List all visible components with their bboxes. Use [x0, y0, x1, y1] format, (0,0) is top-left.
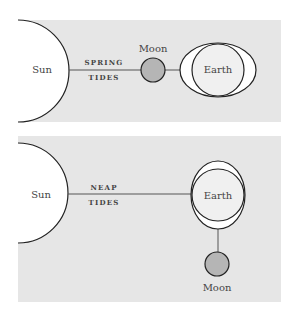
moon-icon	[141, 58, 165, 82]
caption-line2: TIDES	[89, 198, 120, 207]
tides-diagram: Sun SPRING TIDES Moon Earth Sun NEAP TID…	[0, 0, 296, 319]
earth-label: Earth	[204, 190, 233, 201]
moon-icon	[205, 252, 229, 276]
caption-line1: NEAP	[90, 183, 117, 192]
moon-label: Moon	[139, 43, 168, 54]
spring-tides-panel: Sun SPRING TIDES Moon Earth	[18, 20, 281, 122]
sun-label: Sun	[31, 189, 51, 200]
caption-line2: TIDES	[89, 73, 120, 82]
sun-label: Sun	[32, 64, 52, 75]
neap-tides-panel: Sun NEAP TIDES Earth Moon	[18, 136, 281, 302]
earth-label: Earth	[204, 64, 233, 75]
moon-label: Moon	[203, 282, 232, 293]
caption-line1: SPRING	[85, 58, 124, 67]
